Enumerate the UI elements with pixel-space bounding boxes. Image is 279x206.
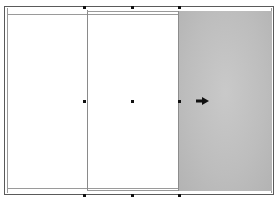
design-canvas[interactable] bbox=[0, 0, 279, 206]
resize-handle-middle-right[interactable] bbox=[178, 100, 181, 103]
resize-handle-bottom-left[interactable] bbox=[83, 194, 86, 197]
resize-handle-top-center[interactable] bbox=[131, 6, 134, 9]
middle-column-bottom-edge bbox=[87, 190, 178, 191]
resize-handle-top-left[interactable] bbox=[83, 6, 86, 9]
column-divider[interactable] bbox=[87, 10, 88, 190]
arrow-right-icon bbox=[196, 97, 209, 105]
resize-handle-middle-left[interactable] bbox=[83, 100, 86, 103]
resize-handle-bottom-right[interactable] bbox=[178, 194, 181, 197]
resize-handle-top-right[interactable] bbox=[178, 6, 181, 9]
selection-center-point[interactable] bbox=[131, 100, 134, 103]
right-panel[interactable] bbox=[178, 11, 272, 191]
resize-handle-bottom-center[interactable] bbox=[131, 194, 134, 197]
middle-column-top-edge bbox=[87, 11, 178, 12]
margin-guide-left bbox=[7, 8, 8, 193]
